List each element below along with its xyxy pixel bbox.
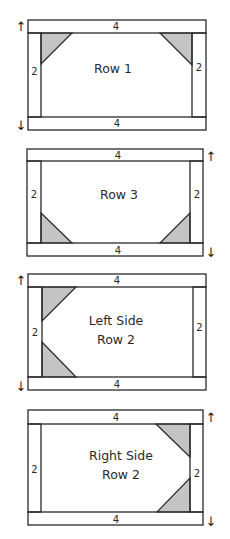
block-row-1: 4 4 2 2 Row 1 ↑ ↓ [16,19,206,133]
bottom-strip-label: 4 [114,379,120,390]
corner-triangle-bottom-right [157,478,190,512]
right-strip-label: 2 [194,468,200,479]
block-title: Row 3 [100,187,138,202]
left-strip-label: 2 [32,327,38,338]
left-strip [27,161,41,243]
bottom-strip-label: 4 [114,118,120,129]
block-title-line-2: Row 2 [102,467,140,482]
block-title-line-1: Right Side [89,448,153,463]
bottom-strip-label: 4 [113,514,119,525]
arrow-up-icon: ↑ [16,19,27,34]
left-strip-label: 2 [31,464,37,475]
arrow-up-icon: ↑ [16,273,27,288]
arrow-down-icon: ↓ [206,245,217,260]
block-right-side-row-2: 4 4 2 2 Right Side Row 2 ↑ ↓ [28,410,216,529]
left-strip-label: 2 [31,66,37,77]
block-title-line-2: Row 2 [97,332,135,347]
corner-triangle-top-left [42,287,76,321]
corner-triangle-bottom-right [160,213,190,243]
block-title: Row 1 [94,61,132,76]
quilt-block-diagram: 4 4 2 2 Row 1 ↑ ↓ 4 4 2 2 Row 3 ↑ ↓ 4 4 … [0,0,230,539]
top-strip-label: 4 [113,412,119,423]
top-strip-label: 4 [113,21,119,32]
arrow-up-icon: ↑ [206,149,217,164]
block-row-3: 4 4 2 2 Row 3 ↑ ↓ [27,149,216,260]
top-strip-label: 4 [115,150,121,161]
block-title-line-1: Left Side [89,313,144,328]
arrow-up-icon: ↑ [206,410,217,425]
top-strip-label: 4 [114,275,120,286]
corner-triangle-top-left [41,33,72,64]
corner-triangle-bottom-left [42,342,76,377]
left-strip-label: 2 [31,189,37,200]
corner-triangle-top-right [160,33,192,65]
arrow-down-icon: ↓ [16,379,27,394]
block-left-side-row-2: 4 4 2 2 Left Side Row 2 ↑ ↓ [16,273,206,394]
right-strip [190,161,203,243]
corner-triangle-bottom-left [41,213,72,243]
right-strip-label: 2 [196,322,202,333]
corner-triangle-top-right [156,424,190,457]
bottom-strip-label: 4 [115,245,121,256]
arrow-down-icon: ↓ [16,118,27,133]
right-strip-label: 2 [194,189,200,200]
right-strip [192,33,206,117]
right-strip-label: 2 [196,62,202,73]
arrow-down-icon: ↓ [206,514,217,529]
